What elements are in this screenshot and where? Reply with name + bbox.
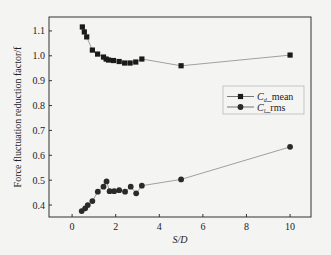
data-point (89, 198, 95, 204)
data-point (287, 52, 292, 57)
data-point (178, 177, 184, 183)
data-point (133, 190, 139, 196)
data-point (85, 202, 91, 208)
data-point (287, 144, 293, 150)
data-point (139, 183, 145, 189)
x-tick-label: 4 (157, 221, 162, 232)
y-tick-label: 1.0 (33, 50, 46, 61)
data-point (111, 58, 116, 63)
data-point (106, 57, 111, 62)
legend-square-marker (238, 94, 243, 99)
legend: Cd_meanCl_rms (223, 86, 304, 114)
x-tick-label: 2 (113, 221, 118, 232)
y-tick-label: 0.8 (33, 100, 46, 111)
y-tick-label: 0.6 (33, 150, 46, 161)
legend-label: Cl_rms (257, 102, 285, 114)
data-point (111, 188, 117, 194)
data-point (80, 24, 85, 29)
data-point (127, 60, 132, 65)
data-point (116, 187, 122, 193)
y-tick-label: 1.1 (33, 25, 46, 36)
y-tick-label: 0.5 (33, 175, 46, 186)
data-point (82, 29, 87, 34)
data-point (104, 179, 110, 185)
data-point (122, 60, 127, 65)
data-point (122, 189, 128, 195)
data-point (95, 189, 101, 195)
data-point (117, 59, 122, 64)
x-axis-label: S/D (173, 234, 189, 245)
data-point (101, 184, 107, 190)
data-point (178, 63, 183, 68)
y-tick-label: 0.4 (33, 200, 46, 211)
x-tick-label: 6 (200, 221, 205, 232)
y-tick-label: 0.9 (33, 75, 46, 86)
chart-svg: 02468100.40.50.60.70.80.91.01.1 S/D Forc… (0, 0, 331, 255)
data-point (90, 47, 95, 52)
data-point (133, 59, 138, 64)
x-tick-label: 8 (244, 221, 249, 232)
data-point (95, 51, 100, 56)
x-tick-label: 10 (285, 221, 295, 232)
legend-circle-marker (238, 104, 244, 110)
y-axis-label: Force fluctuation reduction factor/f (12, 46, 23, 187)
x-tick-label: 0 (70, 221, 75, 232)
data-point (139, 56, 144, 61)
y-tick-label: 0.7 (33, 125, 46, 136)
chart-container: 02468100.40.50.60.70.80.91.01.1 S/D Forc… (0, 0, 331, 255)
data-point (84, 34, 89, 39)
data-point (128, 184, 134, 190)
